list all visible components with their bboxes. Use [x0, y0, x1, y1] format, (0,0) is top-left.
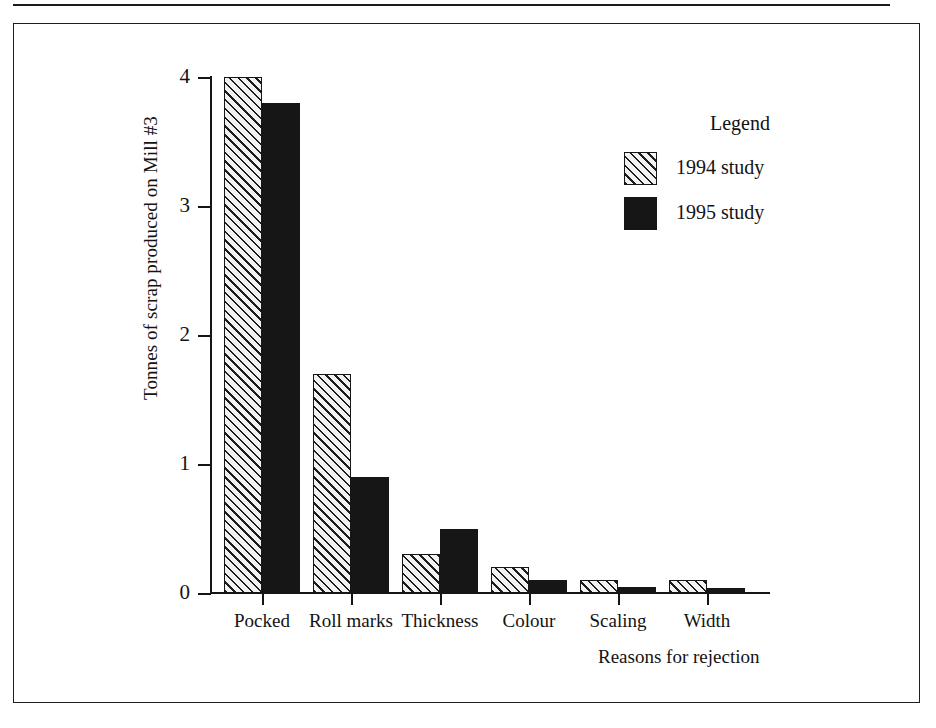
figure-frame — [13, 23, 920, 703]
page-top-rule — [13, 4, 890, 6]
